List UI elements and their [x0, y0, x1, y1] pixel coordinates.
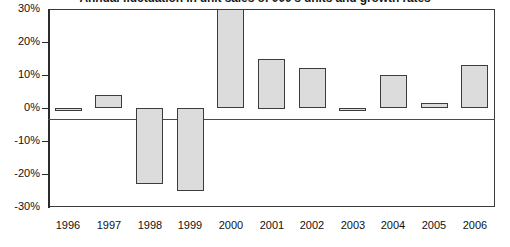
x-axis-label-2001: 2001: [250, 219, 294, 231]
bar-1998: [136, 108, 163, 184]
y-axis-tick: [42, 141, 49, 142]
y-axis-tick-label: -30%: [0, 201, 40, 212]
x-axis-label-2005: 2005: [412, 219, 456, 231]
bar-2005: [421, 103, 448, 108]
x-axis-label-2006: 2006: [453, 219, 497, 231]
x-axis-label-1997: 1997: [87, 219, 131, 231]
bar-chart: Annual fluctuation in unit sales of 000'…: [0, 0, 510, 247]
y-axis-tick: [42, 174, 49, 175]
y-axis-tick: [42, 42, 49, 43]
x-axis-label-2002: 2002: [290, 219, 334, 231]
bar-2006: [461, 65, 488, 108]
chart-title: Annual fluctuation in unit sales of 000'…: [0, 0, 510, 5]
y-axis-tick-label: -10%: [0, 135, 40, 146]
y-axis-tick-label: -20%: [0, 168, 40, 179]
x-axis-label-1998: 1998: [128, 219, 172, 231]
bar-2000: [217, 9, 244, 108]
y-axis-tick-label: 20%: [0, 36, 40, 47]
x-axis-label-1999: 1999: [168, 219, 212, 231]
bar-2001: [258, 59, 285, 109]
y-axis-tick-label: 10%: [0, 69, 40, 80]
bar-2003: [339, 108, 366, 111]
bar-1997: [95, 95, 122, 108]
y-axis-tick: [42, 75, 49, 76]
y-axis-tick-label: 30%: [0, 3, 40, 14]
bar-1999: [177, 108, 204, 191]
bar-2002: [299, 68, 326, 108]
x-axis-label-2004: 2004: [371, 219, 415, 231]
y-axis-tick-label: 0%: [0, 102, 40, 113]
zero-baseline: [48, 119, 495, 120]
bar-2004: [380, 75, 407, 108]
y-axis-tick: [42, 108, 49, 109]
x-axis-label-2000: 2000: [209, 219, 253, 231]
x-axis-label-2003: 2003: [331, 219, 375, 231]
bar-1996: [55, 108, 82, 111]
x-axis-label-1996: 1996: [46, 219, 90, 231]
